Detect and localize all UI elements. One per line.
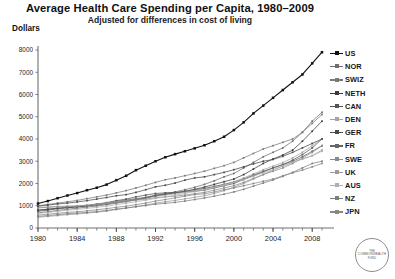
series-marker: [194, 173, 196, 175]
series-marker: [47, 212, 49, 214]
series-marker: [184, 195, 186, 197]
series-marker: [253, 178, 255, 180]
series-line: [38, 151, 322, 213]
series-marker: [174, 194, 176, 196]
logo-line-3: FUND: [368, 257, 376, 261]
series-marker: [144, 164, 147, 167]
series-marker: [262, 160, 264, 162]
legend-item-fr[interactable]: FR: [330, 139, 392, 152]
legend-item-us[interactable]: US: [330, 47, 392, 60]
series-marker: [311, 123, 313, 125]
x-axis-tick-label: 2004: [265, 234, 281, 243]
series-marker: [57, 212, 59, 214]
series-marker: [125, 174, 128, 177]
series-marker: [223, 136, 226, 139]
series-marker: [47, 213, 49, 215]
series-marker: [155, 200, 157, 202]
series-marker: [213, 174, 215, 176]
series-marker: [262, 104, 265, 107]
legend-marker-icon: [330, 102, 343, 111]
legend-label: AUS: [345, 181, 361, 190]
series-marker: [106, 203, 108, 205]
series-marker: [223, 181, 225, 183]
series-marker: [194, 189, 196, 191]
series-marker: [125, 207, 127, 209]
legend-item-nz[interactable]: NZ: [330, 192, 392, 205]
series-marker: [115, 208, 117, 210]
series-line: [38, 150, 322, 217]
legend-item-neth[interactable]: NETH: [330, 87, 392, 100]
series-marker: [115, 192, 117, 194]
series-marker: [321, 114, 323, 116]
legend-item-can[interactable]: CAN: [330, 100, 392, 113]
legend-marker-icon: [330, 155, 343, 164]
legend-label: GER: [345, 128, 361, 137]
series-marker: [291, 81, 294, 84]
series-marker: [272, 169, 274, 171]
series-marker: [282, 156, 284, 158]
legend-item-swe[interactable]: SWE: [330, 153, 392, 166]
series-marker: [106, 210, 108, 212]
series-marker: [233, 187, 235, 189]
series-marker: [262, 169, 264, 171]
series-marker: [272, 152, 274, 154]
legend-label: SWE: [345, 155, 362, 164]
series-marker: [164, 196, 166, 198]
legend-item-ger[interactable]: GER: [330, 126, 392, 139]
x-axis-tick-label: 1988: [108, 234, 124, 243]
series-marker: [223, 176, 225, 178]
series-marker: [86, 200, 88, 202]
series-marker: [253, 153, 255, 155]
series-marker: [194, 177, 196, 179]
series-marker: [223, 165, 225, 167]
series-marker: [302, 169, 304, 171]
series-marker: [135, 201, 137, 203]
y-axis-tick-label: 3000: [19, 158, 34, 165]
series-marker: [37, 210, 39, 212]
y-axis-tick-label: 2000: [19, 180, 34, 187]
series-marker: [272, 159, 274, 161]
legend-marker-icon: [330, 194, 343, 203]
legend-marker-icon: [330, 207, 343, 216]
legend-item-swiz[interactable]: SWIZ: [330, 73, 392, 86]
series-line: [38, 52, 322, 203]
legend-item-jpn[interactable]: JPN: [330, 205, 392, 218]
legend-item-nor[interactable]: NOR: [330, 60, 392, 73]
series-marker: [302, 158, 304, 160]
chart-container: Average Health Care Spending per Capita,…: [0, 0, 395, 279]
series-marker: [193, 147, 196, 150]
series-marker: [233, 162, 235, 164]
series-marker: [164, 202, 166, 204]
series-marker: [56, 197, 59, 200]
series-marker: [302, 167, 304, 169]
series-marker: [174, 182, 176, 184]
series-marker: [57, 208, 59, 210]
y-axis-tick-label: 0: [29, 224, 33, 231]
legend-label: JPN: [345, 207, 360, 216]
series-marker: [203, 144, 206, 147]
series-marker: [135, 196, 137, 198]
series-marker: [184, 175, 186, 177]
series-marker: [292, 157, 294, 159]
legend-item-den[interactable]: DEN: [330, 113, 392, 126]
commonwealth-fund-logo: THE COMMONWEALTH FUND: [355, 238, 389, 272]
legend-label: US: [345, 49, 355, 58]
legend-item-uk[interactable]: UK: [330, 166, 392, 179]
series-marker: [243, 174, 245, 176]
series-marker: [67, 206, 69, 208]
series-marker: [311, 145, 313, 147]
series-marker: [302, 154, 304, 156]
series-marker: [321, 160, 323, 162]
series-marker: [76, 200, 78, 202]
x-axis: 19801984198819921996200020042008: [30, 228, 334, 243]
x-axis-tick-label: 2000: [226, 234, 242, 243]
legend-item-aus[interactable]: AUS: [330, 179, 392, 192]
series-marker: [86, 210, 88, 212]
series-marker: [57, 206, 59, 208]
series-marker: [145, 202, 147, 204]
x-axis-tick-label: 1996: [186, 234, 202, 243]
series-marker: [194, 194, 196, 196]
series-marker: [301, 73, 304, 76]
series-marker: [154, 160, 157, 163]
series-marker: [135, 206, 137, 208]
